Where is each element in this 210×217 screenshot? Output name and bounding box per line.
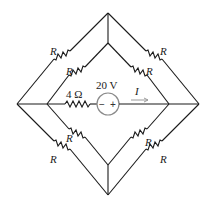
label-r-inner-upper-right: R: [145, 65, 153, 77]
label-r-outer-lower-left: R: [49, 153, 57, 165]
label-current: I: [134, 85, 140, 97]
source-plus-sign: +: [110, 99, 116, 110]
label-r-inner-lower-right: R: [144, 136, 152, 148]
label-r-inner-lower-left: R: [65, 132, 73, 144]
label-r-inner-upper-left: R: [65, 65, 73, 77]
label-voltage-source: 20 V: [96, 79, 118, 91]
label-r-outer-upper-right: R: [159, 45, 167, 57]
source-minus-sign: −: [99, 99, 105, 110]
label-series-resistor: 4 Ω: [66, 88, 82, 100]
label-r-outer-upper-left: R: [49, 45, 57, 57]
labels-layer: R R R R R R R R 4 Ω 20 V − + I: [0, 0, 210, 217]
label-r-outer-lower-right: R: [159, 153, 167, 165]
